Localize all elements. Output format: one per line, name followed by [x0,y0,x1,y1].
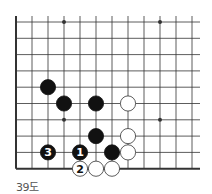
white-stone [120,96,135,111]
black-stone [88,129,103,144]
black-stone [40,80,55,95]
black-stone [104,145,119,160]
white-stone [104,161,119,176]
star-point [62,118,66,122]
move-number: 3 [44,146,52,159]
diagram-caption: 39도 [16,178,39,194]
white-stone: 2 [72,161,87,176]
black-stone: 3 [40,145,55,160]
star-point [158,118,162,122]
white-stone [120,129,135,144]
stones: 312 [40,80,135,177]
move-number: 2 [76,163,84,176]
black-stone: 1 [72,145,87,160]
black-stone [56,96,71,111]
black-stone [88,96,103,111]
go-board: 312 [0,0,212,194]
move-number: 1 [76,146,84,159]
white-stone [88,161,103,176]
star-point [62,20,66,24]
white-stone [120,145,135,160]
star-point [158,20,162,24]
